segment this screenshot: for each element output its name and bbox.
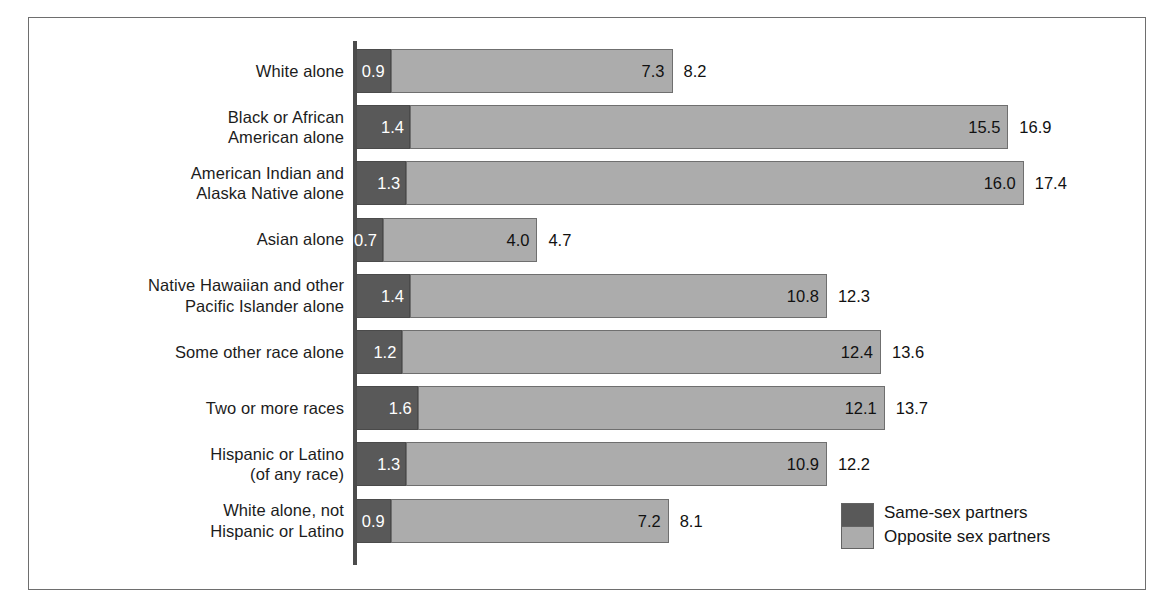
bar-value-opposite-sex: 10.8 bbox=[787, 286, 819, 305]
bar-total-label: 13.7 bbox=[896, 399, 928, 418]
bar-segment-opposite-sex: 12.1 bbox=[418, 386, 885, 430]
legend-swatch-opposite-sex bbox=[842, 526, 873, 548]
stacked-bar: 1.310.9 bbox=[356, 442, 827, 486]
category-label: Asian alone bbox=[44, 229, 344, 250]
bar-value-same-sex: 1.4 bbox=[381, 118, 404, 137]
stacked-bar: 0.74.0 bbox=[356, 218, 537, 262]
bar-segment-opposite-sex: 7.2 bbox=[391, 499, 669, 543]
category-label-line: Pacific Islander alone bbox=[44, 296, 344, 317]
bar-total-label: 4.7 bbox=[548, 230, 571, 249]
bar-value-opposite-sex: 7.3 bbox=[642, 62, 665, 81]
category-label: Black or AfricanAmerican alone bbox=[44, 107, 344, 148]
bar-total-label: 12.3 bbox=[838, 286, 870, 305]
bar-value-opposite-sex: 7.2 bbox=[638, 511, 661, 530]
category-label-line: Hispanic or Latino bbox=[44, 521, 344, 542]
bar-total-label: 13.6 bbox=[892, 343, 924, 362]
chart-legend: Same-sex partners Opposite sex partners bbox=[841, 503, 1050, 549]
bar-row: Hispanic or Latino(of any race)1.310.912… bbox=[0, 442, 1171, 486]
bar-segment-same-sex: 1.3 bbox=[356, 161, 406, 205]
bar-value-opposite-sex: 10.9 bbox=[787, 455, 819, 474]
bar-total-label: 12.2 bbox=[838, 455, 870, 474]
stacked-bar: 0.97.2 bbox=[356, 499, 669, 543]
stacked-bar: 1.415.5 bbox=[356, 105, 1008, 149]
bar-segment-opposite-sex: 4.0 bbox=[383, 218, 537, 262]
bar-segment-same-sex: 1.6 bbox=[356, 386, 418, 430]
bar-segment-opposite-sex: 15.5 bbox=[410, 105, 1008, 149]
category-label-line: Black or African bbox=[44, 107, 344, 128]
stacked-bar: 1.410.8 bbox=[356, 274, 827, 318]
legend-swatch-same-sex bbox=[842, 504, 873, 526]
bar-value-opposite-sex: 15.5 bbox=[968, 118, 1000, 137]
category-label-line: White alone bbox=[44, 61, 344, 82]
category-label-line: Native Hawaiian and other bbox=[44, 275, 344, 296]
stacked-bar: 1.316.0 bbox=[356, 161, 1024, 205]
bar-segment-opposite-sex: 16.0 bbox=[406, 161, 1024, 205]
bar-row: Some other race alone1.212.413.6 bbox=[0, 330, 1171, 374]
bar-row: American Indian andAlaska Native alone1.… bbox=[0, 161, 1171, 205]
category-label-line: Some other race alone bbox=[44, 342, 344, 363]
bar-segment-same-sex: 1.4 bbox=[356, 274, 410, 318]
bar-value-same-sex: 1.3 bbox=[377, 455, 400, 474]
bar-value-same-sex: 0.7 bbox=[354, 230, 377, 249]
category-label-line: (of any race) bbox=[44, 464, 344, 485]
bar-segment-opposite-sex: 10.9 bbox=[406, 442, 827, 486]
bar-segment-opposite-sex: 12.4 bbox=[402, 330, 881, 374]
category-label-line: Hispanic or Latino bbox=[44, 444, 344, 465]
category-label: American Indian andAlaska Native alone bbox=[44, 163, 344, 204]
category-label-line: Two or more races bbox=[44, 398, 344, 419]
category-label-line: Alaska Native alone bbox=[44, 183, 344, 204]
category-label-line: American alone bbox=[44, 127, 344, 148]
bar-total-label: 16.9 bbox=[1019, 118, 1051, 137]
bar-total-label: 8.2 bbox=[684, 62, 707, 81]
category-label: White alone bbox=[44, 61, 344, 82]
chart-figure: White alone0.97.38.2Black or AfricanAmer… bbox=[0, 0, 1171, 612]
bar-segment-same-sex: 1.2 bbox=[356, 330, 402, 374]
category-label: White alone, notHispanic or Latino bbox=[44, 500, 344, 541]
bar-segment-opposite-sex: 7.3 bbox=[391, 49, 673, 93]
stacked-bar: 1.212.4 bbox=[356, 330, 881, 374]
bar-value-same-sex: 1.6 bbox=[389, 399, 412, 418]
bar-total-label: 8.1 bbox=[680, 511, 703, 530]
bar-row: Black or AfricanAmerican alone1.415.516.… bbox=[0, 105, 1171, 149]
bar-row: White alone0.97.38.2 bbox=[0, 49, 1171, 93]
category-label: Native Hawaiian and otherPacific Islande… bbox=[44, 275, 344, 316]
bar-segment-same-sex: 0.9 bbox=[356, 49, 391, 93]
legend-swatch bbox=[841, 503, 874, 549]
bar-row: Native Hawaiian and otherPacific Islande… bbox=[0, 274, 1171, 318]
category-label-line: American Indian and bbox=[44, 163, 344, 184]
bar-value-same-sex: 1.2 bbox=[373, 343, 396, 362]
category-label-line: White alone, not bbox=[44, 500, 344, 521]
bar-segment-same-sex: 0.7 bbox=[356, 218, 383, 262]
legend-label-opposite-sex: Opposite sex partners bbox=[884, 525, 1050, 549]
bar-segment-opposite-sex: 10.8 bbox=[410, 274, 827, 318]
bar-segment-same-sex: 1.4 bbox=[356, 105, 410, 149]
bar-row: Two or more races1.612.113.7 bbox=[0, 386, 1171, 430]
bar-row: Asian alone0.74.04.7 bbox=[0, 218, 1171, 262]
bar-total-label: 17.4 bbox=[1035, 174, 1067, 193]
legend-labels: Same-sex partners Opposite sex partners bbox=[884, 501, 1050, 549]
category-label: Some other race alone bbox=[44, 342, 344, 363]
bar-value-same-sex: 0.9 bbox=[362, 511, 385, 530]
bar-value-same-sex: 0.9 bbox=[362, 62, 385, 81]
bar-value-same-sex: 1.3 bbox=[377, 174, 400, 193]
bar-segment-same-sex: 0.9 bbox=[356, 499, 391, 543]
bar-value-opposite-sex: 12.4 bbox=[841, 343, 873, 362]
bar-value-same-sex: 1.4 bbox=[381, 286, 404, 305]
bar-segment-same-sex: 1.3 bbox=[356, 442, 406, 486]
category-label: Hispanic or Latino(of any race) bbox=[44, 444, 344, 485]
stacked-bar: 1.612.1 bbox=[356, 386, 885, 430]
bar-value-opposite-sex: 16.0 bbox=[984, 174, 1016, 193]
bar-value-opposite-sex: 4.0 bbox=[506, 230, 529, 249]
legend-label-same-sex: Same-sex partners bbox=[884, 501, 1050, 525]
category-label: Two or more races bbox=[44, 398, 344, 419]
category-label-line: Asian alone bbox=[44, 229, 344, 250]
bar-value-opposite-sex: 12.1 bbox=[845, 399, 877, 418]
stacked-bar: 0.97.3 bbox=[356, 49, 673, 93]
